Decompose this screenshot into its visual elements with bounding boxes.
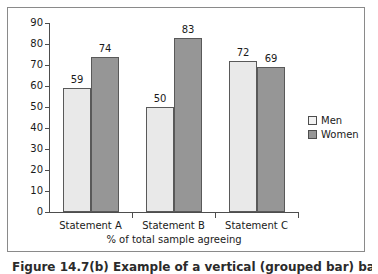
legend-swatch-men-icon [308,116,317,125]
y-axis-tick-label-text: 60 [21,81,43,91]
x-axis-tick [298,213,299,218]
y-axis-line [49,23,50,213]
x-axis-tick [132,213,133,218]
y-axis-tick [45,212,50,213]
y-axis-tick-label-text: 20 [21,165,43,175]
bar-value-label: 83 [168,25,208,35]
chart-legend: Men Women [308,114,364,142]
y-axis-tick [45,65,50,66]
y-axis-tick-label: 90 [16,18,43,28]
y-axis-tick-label-text: 80 [21,39,43,49]
y-axis-tick-label: 30 [16,144,43,154]
y-axis-tick-label-text: 30 [21,144,43,154]
legend-swatch-women-icon [308,130,317,139]
y-axis-tick-label-text: 10 [21,186,43,196]
x-axis-category-label: Statement C [215,220,298,231]
y-axis-tick [45,23,50,24]
x-axis-category-label: Statement B [132,220,215,231]
y-axis-tick [45,191,50,192]
y-axis-tick-label-text: 90 [21,18,43,28]
y-axis-tick-label-text: 50 [21,102,43,112]
bar-men-3[interactable] [229,61,257,212]
legend-item-women[interactable]: Women [308,128,364,141]
y-axis-tick [45,170,50,171]
y-axis-tick-label: 50 [16,102,43,112]
x-axis-category-label: Statement A [49,220,132,231]
legend-label-women: Women [321,129,359,140]
x-axis-tick [215,213,216,218]
legend-item-men[interactable]: Men [308,114,364,127]
y-axis-tick-label: 10 [16,186,43,196]
y-axis-tick-label-text: 70 [21,60,43,70]
bar-women-3[interactable] [257,67,285,212]
y-axis-tick-label: 40 [16,123,43,133]
bar-women-1[interactable] [91,57,119,212]
y-axis-tick [45,86,50,87]
y-axis-tick-label: 70 [16,60,43,70]
y-axis-tick-label-text: 40 [21,123,43,133]
y-axis-tick-label-text: 0 [21,207,43,217]
y-axis-tick [45,149,50,150]
y-axis-tick [45,107,50,108]
bar-value-label: 69 [251,54,291,64]
y-axis-tick-label: 0 [16,207,43,217]
y-axis-tick-label: 80 [16,39,43,49]
y-axis-tick [45,44,50,45]
x-axis-line [49,212,299,213]
y-axis-tick-label: 60 [16,81,43,91]
bar-men-2[interactable] [146,107,174,212]
x-axis-title: % of total sample agreeing [49,234,299,245]
bar-value-label: 74 [85,44,125,54]
bar-men-1[interactable] [63,88,91,212]
bar-women-2[interactable] [174,38,202,212]
y-axis-tick [45,128,50,129]
chart-frame: 01020304050607080905974Statement A5083St… [7,7,365,252]
legend-label-men: Men [321,115,342,126]
figure-caption: Figure 14.7(b) Example of a vertical (gr… [12,260,372,274]
y-axis-tick-label: 20 [16,165,43,175]
